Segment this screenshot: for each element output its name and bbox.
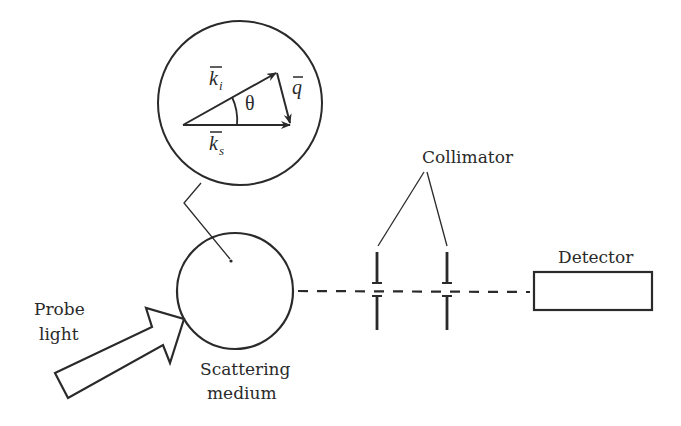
inset-magnification: ki q θ ks: [158, 21, 322, 185]
svg-text:ks: ks: [209, 132, 224, 158]
ki-label: ki: [209, 67, 223, 93]
probe-light-label-line1: Probe: [34, 299, 85, 319]
ks-symbol: k: [209, 132, 219, 154]
svg-text:ki: ki: [209, 67, 223, 93]
ki-subscript: i: [219, 78, 223, 93]
probe-light-label-line2: light: [39, 324, 79, 344]
detector-box: [534, 272, 652, 310]
q-vector-arrow: [277, 73, 290, 123]
theta-angle-arc: [232, 97, 237, 125]
q-symbol: q: [292, 76, 302, 99]
ki-symbol: k: [209, 67, 219, 89]
collimator-pointer-2: [427, 172, 447, 246]
collimator-label: Collimator: [422, 147, 514, 167]
ks-label: ks: [209, 132, 224, 158]
detector-label: Detector: [558, 247, 634, 267]
inset-circle: [158, 21, 322, 185]
scattering-medium-circle: [177, 233, 293, 349]
scattered-beam-path: [298, 291, 530, 292]
inset-connector-line: [184, 183, 230, 259]
ks-subscript: s: [219, 143, 224, 158]
scattering-diagram: ki q θ ks Probe light Scattering medium: [0, 0, 681, 426]
probe-light-arrow: [55, 308, 184, 398]
scattering-point: [229, 259, 232, 262]
scattering-medium-label-line1: Scattering: [200, 359, 291, 379]
theta-label: θ: [245, 92, 255, 114]
scattering-medium-label-line2: medium: [207, 383, 277, 403]
collimator-pointer-1: [378, 172, 424, 246]
ki-vector-arrow: [183, 73, 276, 125]
q-label: q: [292, 76, 303, 99]
